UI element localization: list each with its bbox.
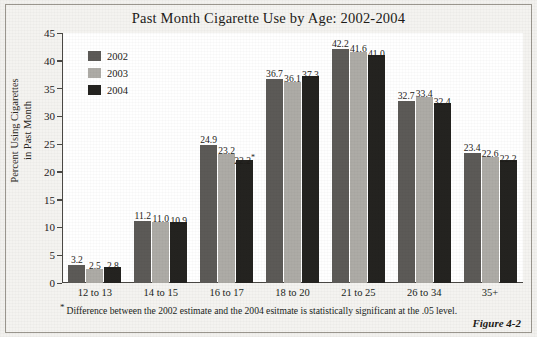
legend-label: 2003 [107, 68, 128, 79]
bar-2002 [266, 79, 283, 283]
legend-swatch-icon [88, 85, 101, 95]
bar-value-label: 10.9 [164, 215, 193, 226]
bar-2002 [464, 153, 481, 283]
bar-value-label: 24.9 [194, 134, 223, 145]
x-axis-tick-label: 21 to 25 [325, 287, 391, 298]
bar-group: 32.733.432.4 [398, 33, 451, 283]
bar-group: 11.211.010.9 [134, 33, 187, 283]
y-axis-tick-label: 10 [44, 221, 55, 233]
footnote-text: Difference between the 2002 estimate and… [67, 305, 458, 316]
bar-2003 [416, 97, 433, 283]
bar-value-label: 32.4 [428, 96, 457, 107]
x-axis-tick-label: 16 to 17 [194, 287, 260, 298]
bar-group: 36.736.137.3 [266, 33, 319, 283]
figure-number: Figure 4-2 [472, 317, 521, 329]
y-axis-tick-label: 15 [44, 194, 55, 206]
bar-value-label: 2.8 [98, 260, 127, 271]
bar-2003 [152, 222, 169, 283]
bar-2002 [398, 101, 415, 283]
y-axis-tick-label: 40 [44, 55, 55, 67]
bar-2004 [500, 160, 517, 283]
bar-value-label: 22.2* [230, 153, 259, 166]
legend-item-2003: 2003 [88, 66, 128, 80]
x-axis-tick-label: 12 to 13 [62, 287, 128, 298]
legend-label: 2004 [107, 85, 128, 96]
footnote: *Difference between the 2002 estimate an… [60, 301, 530, 317]
bar-group: 24.923.222.2* [200, 33, 253, 283]
bar-2002 [134, 221, 151, 283]
x-axis-tick-label: 14 to 15 [128, 287, 194, 298]
figure-page: Past Month Cigarette Use by Age: 2002-20… [0, 0, 537, 337]
legend: 200220032004 [88, 49, 128, 100]
bar-value-label: 37.3 [296, 69, 325, 80]
bar-2004 [434, 103, 451, 283]
y-axis-tick-label: 25 [44, 138, 55, 150]
bar-group: 23.422.622.2 [464, 33, 517, 283]
y-axis-tick-label: 20 [44, 166, 55, 178]
x-axis-tick-label: 18 to 20 [260, 287, 326, 298]
y-axis-tick-label: 45 [44, 27, 55, 39]
y-axis-tick-label: 30 [44, 110, 55, 122]
y-axis-tick-group: 454035302520151050 [0, 33, 62, 283]
bar-2002 [200, 145, 217, 283]
chart-title: Past Month Cigarette Use by Age: 2002-20… [0, 10, 537, 27]
bar-group: 42.241.641.0 [332, 33, 385, 283]
bar-2004 [236, 160, 253, 283]
bar-2004 [170, 222, 187, 283]
y-axis-tick-label: 35 [44, 83, 55, 95]
legend-label: 2002 [107, 51, 128, 62]
bar-2002 [332, 49, 349, 283]
bar-value-label: 41.0 [362, 48, 391, 59]
y-axis-tick-label: 5 [50, 249, 56, 261]
bars-layer: 3.22.52.811.211.010.924.923.222.2*36.736… [62, 33, 523, 283]
bar-2003 [350, 52, 367, 283]
y-axis-tick-label: 0 [50, 277, 56, 289]
legend-item-2002: 2002 [88, 49, 128, 63]
bar-2003 [218, 154, 235, 283]
bar-2003 [284, 82, 301, 283]
x-axis-tick-label: 35+ [457, 287, 523, 298]
footnote-asterisk-icon: * [60, 302, 65, 312]
legend-swatch-icon [88, 51, 101, 61]
bar-value-label: 22.2 [494, 153, 523, 164]
bar-2004 [302, 76, 319, 283]
bar-2003 [482, 157, 499, 283]
legend-swatch-icon [88, 68, 101, 78]
bar-2004 [368, 55, 385, 283]
legend-item-2004: 2004 [88, 83, 128, 97]
x-axis-tick-label: 26 to 34 [391, 287, 457, 298]
